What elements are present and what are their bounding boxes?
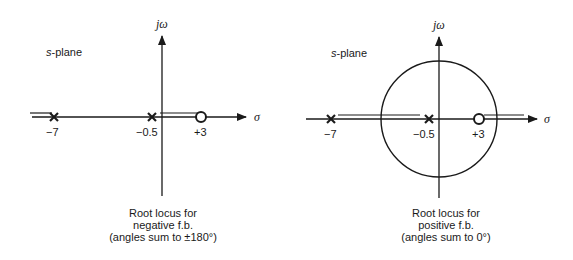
caption-line: (angles sum to ±180°) <box>109 231 217 243</box>
pole-label: −0.5 <box>136 126 158 138</box>
zero-marker <box>196 112 206 122</box>
caption-line: positive f.b. <box>418 219 474 231</box>
pole-label: −7 <box>324 128 337 140</box>
caption-line: Root locus for <box>129 207 197 219</box>
caption-line: negative f.b. <box>133 219 193 231</box>
root-locus-diagram: s-plane jω σ −7 −0.5 +3 Root locus for n… <box>0 0 573 260</box>
zero-label: +3 <box>472 128 485 140</box>
imaginary-axis-label: jω <box>154 17 168 31</box>
panel-negative: s-plane jω σ −7 −0.5 +3 Root locus for n… <box>30 17 261 243</box>
caption-line: (angles sum to 0°) <box>401 231 490 243</box>
zero-marker <box>474 114 484 124</box>
panel-positive: s-plane jω σ −7 −0.5 +3 Root locus for p… <box>306 18 551 243</box>
caption-line: Root locus for <box>412 207 480 219</box>
pole-label: −7 <box>46 126 59 138</box>
zero-label: +3 <box>194 126 207 138</box>
s-plane-label: s-plane <box>331 47 367 59</box>
imaginary-axis-label: jω <box>431 18 445 32</box>
real-axis-label: σ <box>254 110 261 124</box>
pole-label: −0.5 <box>413 128 435 140</box>
s-plane-label: s-plane <box>46 46 82 58</box>
real-axis-label: σ <box>544 112 551 126</box>
